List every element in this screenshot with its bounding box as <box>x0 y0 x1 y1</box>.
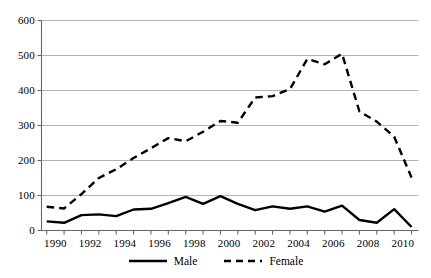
legend-item-male: Male <box>128 255 198 267</box>
x-tick-label: 2010 <box>383 238 423 249</box>
legend-item-female: Female <box>223 255 303 267</box>
y-tick-label: 200 <box>2 155 35 166</box>
y-tick-label: 300 <box>2 120 35 131</box>
legend-swatch-solid <box>128 256 168 266</box>
y-tick-label: 400 <box>2 85 35 96</box>
y-tick-label: 600 <box>2 15 35 26</box>
legend-label-female: Female <box>269 255 303 267</box>
chart-legend: Male Female <box>0 255 431 267</box>
x-axis-ticks <box>47 231 412 235</box>
y-axis-ticks <box>38 21 42 231</box>
data-series <box>47 54 412 227</box>
y-tick-label: 0 <box>2 225 35 236</box>
legend-swatch-dashed <box>223 256 263 266</box>
gridlines <box>42 21 419 231</box>
y-tick-label: 500 <box>2 50 35 61</box>
y-tick-label: 100 <box>2 190 35 201</box>
line-chart: 0100200300400500600 19901992199419961998… <box>0 0 431 278</box>
legend-label-male: Male <box>174 255 198 267</box>
series-line-female <box>47 54 412 209</box>
series-line-male <box>47 196 412 227</box>
